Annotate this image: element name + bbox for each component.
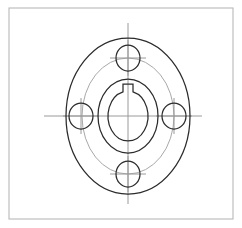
technical-drawing-canvas <box>0 0 242 228</box>
drawing-page <box>0 0 242 228</box>
